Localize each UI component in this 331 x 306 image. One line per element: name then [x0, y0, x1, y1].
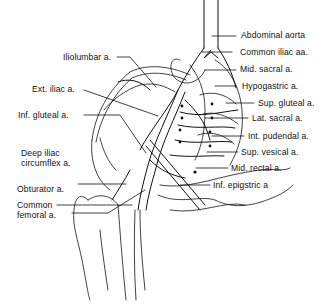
label-inf-epigastric: Inf. epigstric a [213, 180, 268, 190]
label-int-pudendal: Int. pudendal a. [248, 131, 309, 141]
label-deep-iliac-circumflex: Deep iliac circumflex a. [21, 148, 71, 168]
anatomy-diagram: Iliolumbar a. Ext. iliac a. Inf. gluteal… [0, 0, 331, 306]
label-hypogastric: Hypogastric a. [242, 81, 298, 91]
label-sup-gluteal: Sup. gluteal a. [258, 98, 314, 108]
label-obturator: Obturator a. [17, 184, 64, 194]
label-sup-vesical: Sup. vesical a. [241, 147, 298, 157]
label-common-iliac: Common iliac aa. [240, 47, 308, 57]
label-abdominal-aorta: Abdominal aorta [241, 30, 305, 40]
label-mid-rectal: Mid. rectal a. [231, 163, 282, 173]
label-common-femoral: Common femoral a. [17, 200, 56, 220]
label-ext-iliac: Ext. iliac a. [32, 84, 75, 94]
label-inf-gluteal: Inf. gluteal a. [18, 110, 69, 120]
label-mid-sacral: Mid. sacral a. [240, 64, 293, 74]
label-iliolumbar: Iliolumbar a. [63, 52, 111, 62]
label-lat-sacral: Lat. sacral a. [252, 113, 303, 123]
